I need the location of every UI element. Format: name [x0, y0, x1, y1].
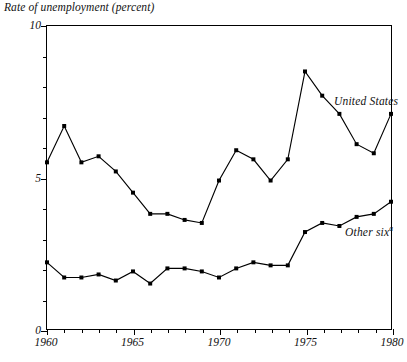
y-axis-minor-tick	[43, 57, 47, 58]
x-axis-label-group: 19601965197019751980	[46, 336, 392, 354]
data-point-marker	[97, 154, 101, 158]
data-point-marker	[389, 200, 393, 204]
y-axis-minor-tick	[43, 209, 47, 210]
data-point-marker	[320, 221, 324, 225]
x-axis-major-tick	[393, 329, 394, 335]
data-point-marker	[286, 157, 290, 161]
x-axis-minor-tick	[99, 329, 100, 333]
data-point-marker	[165, 266, 169, 270]
data-point-marker	[165, 212, 169, 216]
data-point-marker	[45, 160, 49, 164]
y-axis-major-tick	[41, 26, 47, 27]
data-point-marker	[286, 263, 290, 267]
x-axis-major-tick	[220, 329, 221, 335]
data-point-marker	[251, 157, 255, 161]
y-axis-minor-tick	[43, 148, 47, 149]
data-point-marker	[183, 266, 187, 270]
data-point-marker	[79, 276, 83, 280]
data-point-marker	[355, 142, 359, 146]
data-point-marker	[200, 269, 204, 273]
y-axis-minor-tick	[43, 118, 47, 119]
y-axis-label-group: 0510	[18, 25, 41, 330]
series-label-united-states-text: United States	[334, 95, 398, 107]
data-point-marker	[303, 230, 307, 234]
data-point-marker	[97, 272, 101, 276]
series-label-other-six: Other sixa	[345, 226, 393, 238]
chart-title: Rate of unemployment (percent)	[4, 1, 154, 13]
series-label-other-six-footnote: a	[389, 224, 393, 233]
data-point-marker	[148, 212, 152, 216]
data-point-marker	[200, 221, 204, 225]
data-point-marker	[62, 124, 66, 128]
x-axis-major-tick	[47, 329, 48, 335]
y-axis-minor-tick	[43, 301, 47, 302]
x-axis-minor-tick	[255, 329, 256, 333]
x-axis-tick-label: 1975	[294, 336, 317, 348]
data-point-marker	[217, 179, 221, 183]
plot-area	[46, 25, 392, 330]
data-point-marker	[131, 191, 135, 195]
data-point-marker	[131, 269, 135, 273]
x-axis-tick-label: 1970	[208, 336, 231, 348]
data-point-marker	[269, 179, 273, 183]
y-axis-tick-label: 10	[30, 19, 42, 31]
x-axis-minor-tick	[151, 329, 152, 333]
x-axis-minor-tick	[358, 329, 359, 333]
x-axis-minor-tick	[272, 329, 273, 333]
x-axis-minor-tick	[203, 329, 204, 333]
x-axis-minor-tick	[376, 329, 377, 333]
y-axis-major-tick	[41, 179, 47, 180]
data-point-marker	[337, 224, 341, 228]
data-point-marker	[148, 282, 152, 286]
data-point-marker	[183, 218, 187, 222]
data-point-marker	[114, 169, 118, 173]
x-axis-major-tick	[307, 329, 308, 335]
y-axis-tick-label: 0	[35, 324, 41, 336]
x-axis-tick-label: 1960	[35, 336, 58, 348]
data-point-marker	[337, 112, 341, 116]
x-axis-minor-tick	[185, 329, 186, 333]
data-point-marker	[251, 260, 255, 264]
x-axis-minor-tick	[324, 329, 325, 333]
data-point-marker	[217, 276, 221, 280]
y-axis-minor-tick	[43, 87, 47, 88]
y-axis-tick-label: 5	[35, 172, 41, 184]
data-point-marker	[320, 94, 324, 98]
data-point-marker	[389, 112, 393, 116]
data-point-marker	[45, 260, 49, 264]
data-point-marker	[303, 69, 307, 73]
data-point-marker	[372, 151, 376, 155]
data-point-marker	[79, 160, 83, 164]
x-axis-tick-label: 1980	[381, 336, 404, 348]
x-axis-minor-tick	[64, 329, 65, 333]
x-axis-minor-tick	[116, 329, 117, 333]
data-point-marker	[269, 263, 273, 267]
data-point-marker	[62, 276, 66, 280]
x-axis-minor-tick	[168, 329, 169, 333]
x-axis-minor-tick	[341, 329, 342, 333]
data-point-marker	[234, 148, 238, 152]
x-axis-minor-tick	[289, 329, 290, 333]
unemployment-rate-chart: Rate of unemployment (percent) 0510 1960…	[0, 0, 407, 362]
data-point-marker	[355, 215, 359, 219]
x-axis-minor-tick	[237, 329, 238, 333]
series-plot	[47, 26, 391, 329]
series-label-other-six-text: Other six	[345, 226, 389, 238]
x-axis-minor-tick	[82, 329, 83, 333]
y-axis-minor-tick	[43, 240, 47, 241]
series-line	[47, 202, 391, 284]
x-axis-major-tick	[134, 329, 135, 335]
series-label-united-states: United States	[334, 95, 398, 107]
data-point-marker	[372, 212, 376, 216]
data-point-marker	[234, 266, 238, 270]
data-point-marker	[114, 279, 118, 283]
x-axis-tick-label: 1965	[121, 336, 144, 348]
y-axis-minor-tick	[43, 270, 47, 271]
